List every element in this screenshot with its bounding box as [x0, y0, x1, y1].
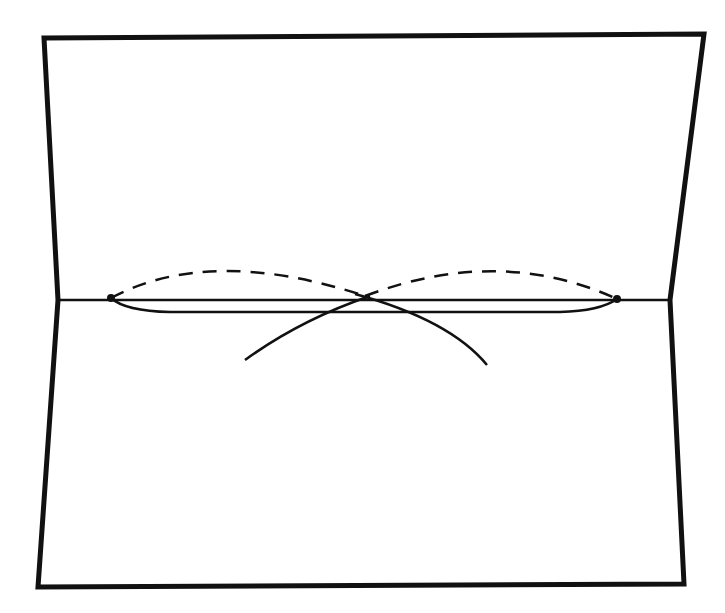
- crossing-arc-left: [245, 296, 370, 360]
- card-outline: [38, 34, 704, 587]
- right-point: [613, 295, 621, 303]
- crossing-arc-right: [355, 294, 487, 365]
- diagram-canvas: [0, 0, 725, 613]
- left-point: [107, 294, 115, 302]
- folded-card-figure: [0, 0, 725, 613]
- dashed-arc-left: [111, 271, 365, 298]
- dashed-arc-right: [365, 271, 617, 299]
